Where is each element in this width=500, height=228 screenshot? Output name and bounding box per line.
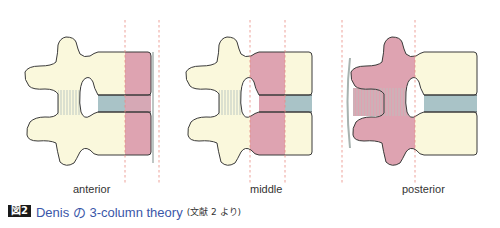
panel-posterior <box>326 20 477 184</box>
figure-number-badge: 図2 <box>8 205 31 217</box>
figure-caption: 図2 Denis の 3-column theory (文献 2 より) <box>8 204 241 218</box>
panel-label-posterior: posterior <box>402 183 445 195</box>
denis-three-column-diagram <box>0 0 500 185</box>
panel-middle <box>186 20 312 184</box>
vertebra-anterior <box>25 37 155 165</box>
ligament <box>219 90 241 115</box>
panel-anterior <box>0 0 170 185</box>
figure-reference: (文献 2 より) <box>187 205 241 218</box>
ligament <box>58 90 80 115</box>
disc <box>424 95 477 112</box>
panel-label-middle: middle <box>250 183 282 195</box>
figure-title: Denis の 3-column theory <box>36 202 183 221</box>
panel-label-anterior: anterior <box>73 183 110 195</box>
supraspinous-ligament <box>348 58 351 148</box>
